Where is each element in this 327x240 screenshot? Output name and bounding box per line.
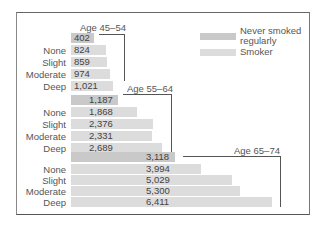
bar-smoker: 5,029 (71, 175, 232, 185)
bar-smoker: 974 (71, 69, 110, 79)
category-label: None (14, 164, 66, 175)
category-label: None (14, 107, 66, 118)
legend-label-never-2: regularly (240, 36, 276, 46)
bar-smoker: 824 (71, 45, 106, 55)
legend-swatch-smoker (200, 49, 236, 56)
legend-label-smoker: Smoker (240, 47, 273, 57)
category-label: Deep (14, 197, 66, 208)
bar-never-65-74: 3,118 (71, 152, 175, 162)
bar-smoker: 1,021 (71, 81, 113, 91)
category-label: Slight (14, 175, 66, 186)
bar-smoker: 6,411 (71, 197, 272, 207)
category-label: Moderate (14, 186, 66, 197)
category-label: None (14, 45, 66, 56)
bar-smoker: 859 (71, 57, 107, 67)
category-label: Slight (14, 57, 66, 68)
bar-smoker: 2,376 (71, 119, 153, 129)
category-label: Slight (14, 119, 66, 130)
group-title-65-74: Age 65–74 (234, 145, 280, 156)
legend-swatch-never (200, 33, 236, 40)
category-label: Deep (14, 143, 66, 154)
category-label: Moderate (14, 69, 66, 80)
bar-smoker: 2,331 (71, 131, 152, 141)
group-title-55-64: Age 55–64 (127, 83, 173, 94)
category-label: Deep (14, 81, 66, 92)
bar-never-45-54: 402 (71, 33, 94, 43)
bar-smoker: 1,868 (71, 107, 137, 117)
bar-smoker: 5,300 (71, 186, 240, 196)
bar-never-55-64: 1,187 (71, 95, 118, 105)
bar-smoker: 3,994 (71, 164, 201, 174)
category-label: Moderate (14, 131, 66, 142)
